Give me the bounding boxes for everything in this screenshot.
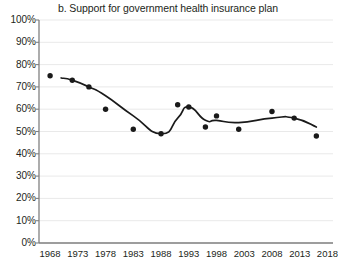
data-point	[186, 104, 191, 109]
data-point	[175, 102, 180, 107]
gridlines	[39, 20, 333, 243]
data-point	[314, 133, 319, 138]
data-point	[158, 131, 163, 136]
data-point	[131, 127, 136, 132]
data-point	[214, 113, 219, 118]
data-point	[103, 107, 108, 112]
data-point	[86, 84, 91, 89]
data-points	[47, 73, 319, 139]
data-point	[203, 124, 208, 129]
data-point	[47, 73, 52, 78]
data-point	[70, 78, 75, 83]
data-point	[269, 109, 274, 114]
data-point	[291, 115, 296, 120]
data-point	[236, 127, 241, 132]
